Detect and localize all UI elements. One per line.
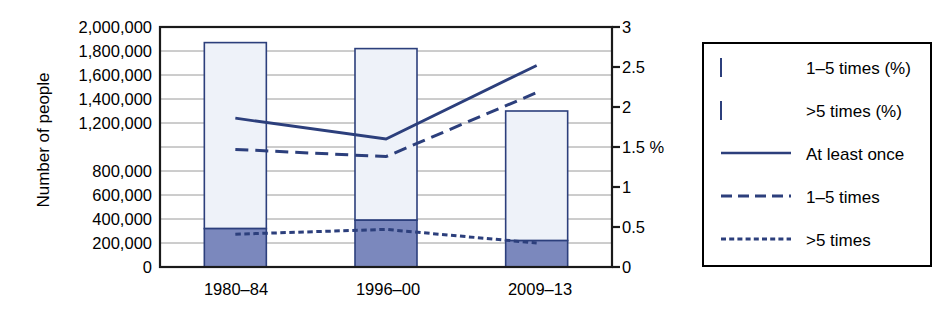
line-dashed-icon: [720, 190, 792, 202]
legend-item: 1–5 times (%): [720, 56, 911, 82]
bar-segment-upper: [355, 49, 417, 221]
line-solid-icon: [720, 147, 792, 159]
chart-figure: Number of people 2,000,000 1,800,000 1,6…: [0, 0, 951, 323]
bar-segment-upper: [506, 111, 568, 241]
legend-key-over-5-times: [720, 231, 792, 251]
bar-segment-lower: [355, 220, 417, 267]
legend-key-at-least-once: [720, 145, 792, 165]
legend-item: >5 times (%): [720, 99, 902, 125]
legend-label: >5 times: [806, 231, 871, 251]
bar-segment-lower: [506, 241, 568, 267]
swatch-icon: [720, 101, 722, 120]
legend-label: >5 times (%): [806, 102, 902, 122]
legend-key-1-5-times-pct: [720, 59, 792, 79]
legend-item: At least once: [720, 142, 904, 168]
line-dotted-icon: [720, 233, 792, 245]
legend-label: 1–5 times: [806, 188, 880, 208]
bar-segment-upper: [204, 43, 266, 229]
legend-label: At least once: [806, 145, 904, 165]
axis-tick-marks: [612, 27, 620, 267]
swatch-icon: [720, 58, 722, 77]
legend-label: 1–5 times (%): [806, 59, 911, 79]
legend-item: >5 times: [720, 228, 871, 254]
legend: 1–5 times (%) >5 times (%) At least once…: [702, 42, 932, 267]
legend-key-over-5-times-pct: [720, 102, 792, 122]
legend-key-1-5-times: [720, 188, 792, 208]
legend-item: 1–5 times: [720, 185, 880, 211]
